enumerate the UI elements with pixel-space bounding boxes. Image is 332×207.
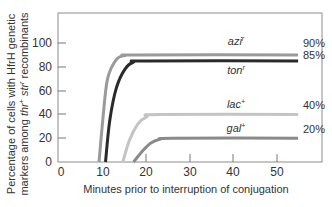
- pct-label-azi: 90%: [303, 37, 325, 49]
- y-tick-label: 100: [32, 36, 52, 50]
- pct-label-lac: 40%: [303, 99, 325, 111]
- label-gal-sup: +: [241, 122, 245, 129]
- label-azi-name: azi: [228, 35, 243, 47]
- series-label-azi: azir: [228, 35, 245, 47]
- label-lac-sup: +: [241, 98, 245, 105]
- label-azi-sup: r: [242, 35, 245, 42]
- y-tick-label: 0: [45, 155, 52, 169]
- series-line-ton: [106, 61, 299, 162]
- pct-label-gal: 20%: [303, 123, 325, 135]
- y-axis-title: Percentage of cells with HfrH genetic ma…: [5, 12, 30, 196]
- x-tick-labels: 0 10 20 30 40 50: [58, 165, 284, 179]
- y-title-suffix: recombinants: [18, 12, 30, 82]
- label-gal-name: gal: [227, 122, 242, 134]
- label-ton-name: ton: [227, 64, 242, 76]
- y-axis-title-line1: Percentage of cells with HfrH genetic: [5, 13, 17, 194]
- y-axis: [58, 43, 66, 138]
- x-axis-title: Minutes prior to interruption of conjuga…: [83, 183, 288, 195]
- series-line-gal: [134, 138, 299, 162]
- y-tick-label: 80: [39, 60, 53, 74]
- y-title-prefix: markers among: [18, 116, 30, 195]
- x-tick-label: 0: [58, 165, 65, 179]
- x-axis: [146, 154, 277, 162]
- x-tick-label: 50: [270, 165, 284, 179]
- series-label-lac: lac+: [227, 98, 245, 110]
- y-title-str: str: [18, 83, 30, 100]
- y-tick-labels: 0 20 40 60 80 100: [32, 36, 52, 169]
- x-tick-label: 30: [183, 165, 197, 179]
- y-tick-label: 60: [39, 84, 53, 98]
- y-axis-title-line2: markers among thr+ strr recombinants: [18, 12, 30, 196]
- x-tick-label: 20: [139, 165, 153, 179]
- y-tick-label: 40: [39, 107, 53, 121]
- label-lac-name: lac: [227, 98, 242, 110]
- series-label-gal: gal+: [227, 122, 246, 134]
- series-label-ton: tonr: [227, 64, 245, 76]
- curves: [99, 55, 298, 162]
- x-tick-label: 40: [226, 165, 240, 179]
- genetic-mapping-chart: 0 20 40 60 80 100 0 10 20 30 40 50 Minut…: [0, 0, 332, 207]
- pct-label-ton: 85%: [303, 49, 325, 61]
- x-tick-label: 10: [96, 165, 110, 179]
- label-ton-sup: r: [242, 64, 245, 71]
- y-tick-label: 20: [39, 131, 53, 145]
